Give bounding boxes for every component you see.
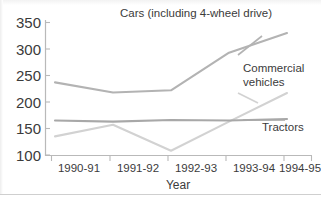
x-axis-title: Year (166, 178, 190, 192)
series-label-commercial-vehicles-line2: vehicles (243, 76, 285, 88)
series-line-tractors (55, 119, 287, 122)
x-axis-labels: 1990-91 1991-92 1992-93 1993-94 1994-95 (58, 162, 321, 174)
x-tick-label-1993-94: 1993-94 (233, 162, 276, 174)
y-tick-label-100: 100 (16, 147, 41, 164)
y-tick-label-350: 350 (16, 14, 41, 31)
chart-plot-area: 350 300 250 200 150 100 1990-91 1991-92 … (0, 0, 321, 198)
line-chart: 350 300 250 200 150 100 1990-91 1991-92 … (0, 0, 321, 198)
y-tick-label-150: 150 (16, 120, 41, 137)
y-tick-label-250: 250 (16, 67, 41, 84)
x-tick-label-1991-92: 1991-92 (117, 162, 159, 174)
series-label-cars: Cars (including 4-wheel drive) (120, 7, 272, 19)
x-tick-label-1992-93: 1992-93 (175, 162, 217, 174)
y-axis-labels: 350 300 250 200 150 100 (16, 14, 41, 164)
y-axis-ticks (46, 23, 51, 156)
x-tick-label-1990-91: 1990-91 (58, 162, 100, 174)
x-axis-ticks (52, 156, 312, 162)
y-tick-label-300: 300 (16, 41, 41, 58)
bottom-border (0, 194, 321, 198)
x-tick-label-1994-95: 1994-95 (279, 162, 321, 174)
annotation-leader-line-1 (238, 93, 258, 103)
y-tick-label-200: 200 (16, 94, 41, 111)
series-label-tractors: Tractors (262, 121, 304, 133)
series-label-commercial-vehicles-line1: Commercial (243, 62, 304, 74)
